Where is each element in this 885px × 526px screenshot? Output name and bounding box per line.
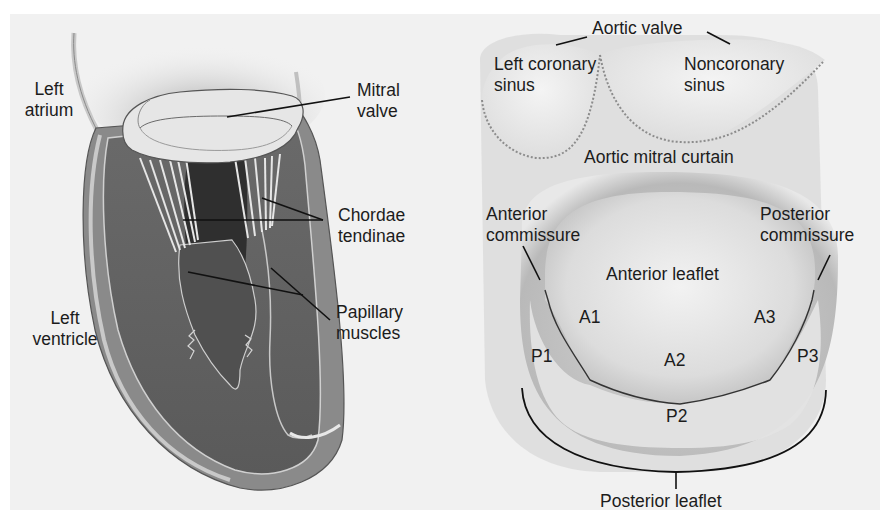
label-segment-a1: A1	[579, 307, 600, 328]
label-left-ventricle: Left ventricle	[20, 308, 110, 350]
label-left-atrium: Left atrium	[14, 79, 84, 121]
heart-cross-section	[74, 33, 350, 490]
label-anterior-commissure: Anterior commissure	[486, 204, 580, 246]
label-posterior-commissure: Posterior commissure	[760, 204, 854, 246]
mitral-valve-surgical-view	[480, 32, 838, 489]
label-left-coronary-sinus: Left coronary sinus	[494, 54, 596, 96]
label-segment-p3: P3	[797, 346, 818, 367]
label-chordae-tendinae: Chordae tendinae	[338, 205, 405, 247]
label-papillary-muscles: Papillary muscles	[336, 302, 403, 344]
label-mitral-valve: Mitral valve	[357, 80, 400, 122]
label-anterior-leaflet: Anterior leaflet	[606, 264, 719, 285]
label-noncoronary-sinus: Noncoronary sinus	[684, 54, 784, 96]
label-segment-p2: P2	[666, 406, 687, 427]
label-aortic-valve: Aortic valve	[592, 18, 682, 39]
label-segment-a3: A3	[754, 307, 775, 328]
label-segment-p1: P1	[531, 346, 552, 367]
label-aortic-mitral-curtain: Aortic mitral curtain	[584, 147, 734, 168]
label-posterior-leaflet: Posterior leaflet	[600, 491, 722, 512]
label-segment-a2: A2	[664, 350, 685, 371]
